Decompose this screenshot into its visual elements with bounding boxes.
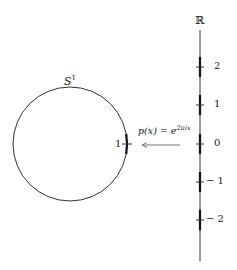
axis-label: ℝ <box>195 14 204 27</box>
circle-s1 <box>13 87 127 201</box>
tick-label-minus-2: − 2 <box>206 213 224 224</box>
tick-label-minus-1: − 1 <box>206 175 224 186</box>
circle-label: S1 <box>64 74 76 88</box>
tick-label-1: 1 <box>214 98 220 109</box>
tick-label-2: 2 <box>214 60 220 71</box>
circle-point-label: 1 <box>115 138 121 149</box>
tick-label-0: 0 <box>214 137 220 148</box>
covering-map-diagram <box>0 0 237 270</box>
map-label: p(x) = e2πix <box>138 124 191 136</box>
